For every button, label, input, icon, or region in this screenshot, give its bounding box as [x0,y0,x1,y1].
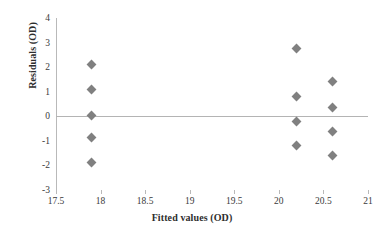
plot-area: 43210-1-2-317.51818.51919.52020.521 [56,18,368,190]
data-point [327,77,337,87]
y-tick-label: -3 [42,185,50,195]
y-tick-label: 3 [45,38,50,48]
data-point [292,92,302,102]
x-tick-mark [56,190,57,194]
x-tick-label: 20.5 [315,196,332,206]
residual-plot-figure: Residuals (OD) 43210-1-2-317.51818.51919… [0,0,384,236]
y-tick-label: -2 [42,160,50,170]
data-point [87,158,97,168]
x-tick-mark [368,190,369,194]
data-point [87,60,97,70]
x-tick-label: 19.5 [226,196,243,206]
y-tick-label: -1 [42,136,50,146]
data-point [327,103,337,113]
y-tick-label: 1 [45,87,50,97]
x-tick-label: 18.5 [137,196,154,206]
x-tick-mark [145,190,146,194]
x-tick-label: 20 [274,196,284,206]
x-tick-label: 21 [363,196,373,206]
data-point [327,151,337,161]
data-point [87,84,97,94]
data-point [292,116,302,126]
data-point [87,110,97,120]
data-point [327,126,337,136]
data-point [292,44,302,54]
x-tick-mark [279,190,280,194]
y-axis-title: Residuals (OD) [27,0,38,136]
y-tick-label: 2 [45,62,50,72]
x-tick-label: 18 [96,196,106,206]
x-tick-mark [234,190,235,194]
data-point [87,132,97,142]
x-tick-mark [323,190,324,194]
data-point [292,141,302,151]
y-tick-label: 4 [45,13,50,23]
x-tick-label: 19 [185,196,195,206]
zero-reference-line [56,116,368,117]
y-axis-spine [56,18,57,190]
x-axis-title: Fitted values (OD) [0,212,384,223]
x-tick-mark [190,190,191,194]
y-tick-label: 0 [45,111,50,121]
x-tick-label: 17.5 [48,196,65,206]
x-tick-mark [101,190,102,194]
